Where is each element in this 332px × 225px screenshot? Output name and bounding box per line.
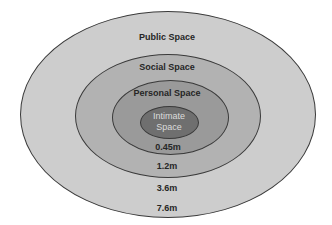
intimate-space-label-line2: Space	[3, 122, 332, 132]
public-space-label: Public Space	[1, 32, 332, 42]
personal-space-label: Personal Space	[1, 88, 332, 98]
public-distance-label: 7.6m	[1, 203, 332, 213]
social-space-label: Social Space	[1, 62, 332, 72]
intimate-distance-label: 0.45m	[2, 142, 332, 152]
proxemics-diagram: Public Space Social Space Personal Space…	[0, 0, 332, 225]
social-distance-label: 3.6m	[1, 183, 332, 193]
personal-distance-label: 1.2m	[1, 161, 332, 171]
intimate-space-label-line1: Intimate	[3, 111, 332, 121]
